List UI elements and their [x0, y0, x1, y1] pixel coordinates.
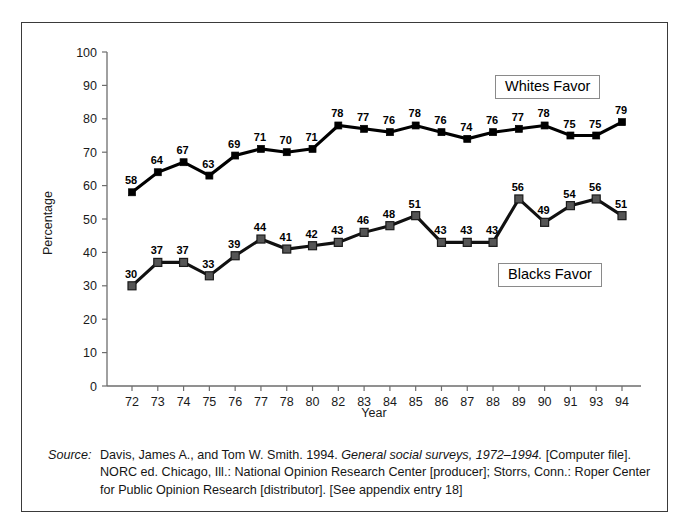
legend-whites-favor: Whites Favor	[495, 75, 600, 99]
y-axis-title: Percentage	[41, 191, 55, 255]
x-tick-label: 85	[409, 395, 423, 409]
data-point-marker	[232, 152, 239, 159]
x-tick-label: 87	[460, 395, 474, 409]
data-point-value-label: 76	[434, 114, 446, 126]
data-point-value-label: 67	[176, 144, 188, 156]
x-tick-label: 82	[331, 395, 345, 409]
data-point-marker	[463, 238, 471, 246]
data-point-value-label: 75	[589, 118, 601, 130]
source-line3: for Public Opinion Research [distributor…	[100, 483, 463, 497]
data-point-marker	[515, 125, 522, 132]
source-row: Source: Davis, James A., and Tom W. Smit…	[48, 447, 663, 499]
data-point-marker	[593, 132, 600, 139]
data-point-value-label: 44	[254, 221, 267, 233]
data-point-marker	[335, 122, 342, 129]
data-point-value-label: 37	[151, 244, 163, 256]
data-point-value-label: 39	[228, 238, 240, 250]
data-point-value-label: 41	[280, 231, 292, 243]
data-point-marker	[566, 202, 574, 210]
data-point-value-label: 63	[202, 158, 214, 170]
data-point-value-label: 77	[512, 111, 524, 123]
data-point-marker	[490, 129, 497, 136]
data-point-marker	[180, 258, 188, 266]
y-axis-ticks: 0102030405060708090100	[76, 46, 107, 394]
legend-whites-label: Whites Favor	[505, 78, 590, 94]
data-point-value-label: 43	[460, 224, 472, 236]
data-point-value-label: 56	[512, 181, 524, 193]
data-point-marker	[283, 149, 290, 156]
data-point-marker	[464, 135, 471, 142]
x-tick-label: 77	[254, 395, 268, 409]
data-point-marker	[257, 145, 264, 152]
y-tick-label: 80	[83, 112, 97, 126]
data-point-marker	[231, 252, 239, 260]
x-tick-label: 88	[486, 395, 500, 409]
data-point-value-label: 46	[357, 214, 369, 226]
y-tick-label: 40	[83, 246, 97, 260]
y-tick-label: 20	[83, 313, 97, 327]
x-tick-label: 91	[563, 395, 577, 409]
data-point-value-label: 42	[305, 228, 317, 240]
data-point-marker	[386, 222, 394, 230]
data-point-marker	[567, 132, 574, 139]
data-point-marker	[334, 238, 342, 246]
data-point-value-label: 69	[228, 138, 240, 150]
y-tick-label: 0	[90, 380, 97, 394]
data-point-marker	[489, 238, 497, 246]
data-point-value-label: 56	[589, 181, 601, 193]
data-point-marker	[412, 122, 419, 129]
data-point-marker	[618, 212, 626, 220]
x-tick-label: 80	[306, 395, 320, 409]
data-point-value-label: 49	[538, 204, 550, 216]
x-tick-label: 76	[228, 395, 242, 409]
data-point-value-label: 64	[151, 154, 164, 166]
y-tick-label: 50	[83, 213, 97, 227]
data-point-value-label: 78	[331, 107, 343, 119]
x-tick-label: 89	[512, 395, 526, 409]
data-point-value-label: 76	[383, 114, 395, 126]
y-tick-label: 90	[83, 79, 97, 93]
y-tick-label: 60	[83, 179, 97, 193]
source-line2: NORC ed. Chicago, Ill.: National Opinion…	[100, 465, 650, 479]
x-tick-label: 75	[202, 395, 216, 409]
source-line1-italic: General social surveys, 1972–1994.	[341, 448, 542, 462]
data-point-value-label: 74	[460, 121, 473, 133]
data-point-value-label: 51	[409, 198, 421, 210]
data-point-value-label: 30	[125, 268, 137, 280]
data-point-value-label: 48	[383, 208, 395, 220]
data-point-marker	[206, 172, 213, 179]
data-point-marker	[283, 245, 291, 253]
data-point-marker	[309, 145, 316, 152]
data-point-marker	[309, 242, 317, 250]
data-point-value-label: 77	[357, 111, 369, 123]
data-point-value-label: 54	[563, 188, 576, 200]
figure-frame: 0102030405060708090100 72737475767778808…	[21, 22, 668, 512]
data-point-value-label: 43	[486, 224, 498, 236]
data-point-value-label: 37	[176, 244, 188, 256]
x-tick-label: 94	[615, 395, 629, 409]
data-point-marker	[437, 238, 445, 246]
x-tick-label: 74	[177, 395, 191, 409]
data-point-value-label: 43	[434, 224, 446, 236]
legend-blacks-favor: Blacks Favor	[498, 263, 602, 287]
source-note: Source: Davis, James A., and Tom W. Smit…	[48, 447, 663, 499]
data-point-marker	[360, 228, 368, 236]
data-point-value-label: 78	[538, 107, 550, 119]
data-point-value-label: 33	[202, 258, 214, 270]
data-point-marker	[541, 122, 548, 129]
x-tick-label: 86	[435, 395, 449, 409]
data-point-marker	[412, 212, 420, 220]
data-point-value-label: 79	[615, 104, 627, 116]
data-point-marker	[154, 169, 161, 176]
data-point-marker	[128, 282, 136, 290]
data-point-value-label: 58	[125, 174, 137, 186]
x-tick-label: 93	[589, 395, 603, 409]
y-tick-label: 10	[83, 346, 97, 360]
data-point-value-label: 51	[615, 198, 627, 210]
data-point-marker	[515, 195, 523, 203]
legend-blacks-label: Blacks Favor	[508, 266, 592, 282]
source-text: Davis, James A., and Tom W. Smith. 1994.…	[100, 447, 663, 499]
data-point-marker	[257, 235, 265, 243]
y-tick-label: 70	[83, 146, 97, 160]
source-label: Source:	[48, 447, 100, 464]
